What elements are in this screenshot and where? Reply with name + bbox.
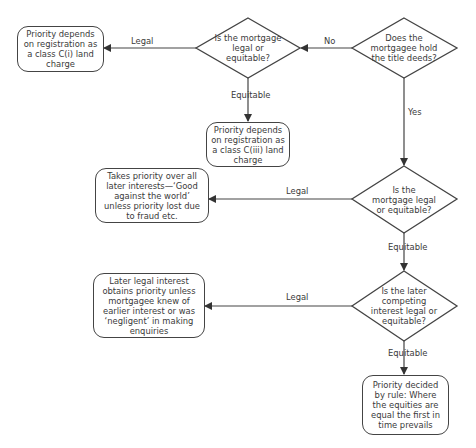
decision-text-title-deeds: Does the mortgagee hold the title deeds? bbox=[366, 28, 442, 68]
decision-text-later-interest: Is the later competing interest legal or… bbox=[368, 283, 440, 329]
edge-label-equitable-2: Equitable bbox=[388, 242, 427, 252]
decision-text-legal-equitable-2: Is the mortgage legal or equitable? bbox=[372, 179, 436, 221]
edge-label-legal-1: Legal bbox=[131, 36, 153, 46]
decision-text-legal-equitable-1: Is the mortgage legal or equitable? bbox=[212, 28, 284, 68]
outcome-box-class-ci: Priority depends on registration as a cl… bbox=[17, 26, 104, 72]
outcome-box-good-against-world: Takes priority over all later interests—… bbox=[95, 168, 209, 223]
outcome-box-later-legal-interest: Later legal interest obtains priority un… bbox=[93, 273, 205, 338]
outcome-box-first-in-time: Priority decided by rule: Where the equi… bbox=[362, 375, 449, 435]
edge-label-yes: Yes bbox=[408, 107, 422, 117]
edge-label-equitable-1: Equitable bbox=[231, 90, 270, 100]
edge-label-legal-3: Legal bbox=[286, 292, 308, 302]
edge-label-legal-2: Legal bbox=[286, 186, 308, 196]
edge-label-equitable-3: Equitable bbox=[388, 348, 427, 358]
outcome-box-class-ciii: Priority depends on registration as a cl… bbox=[206, 122, 290, 167]
edge-label-no: No bbox=[324, 36, 335, 46]
